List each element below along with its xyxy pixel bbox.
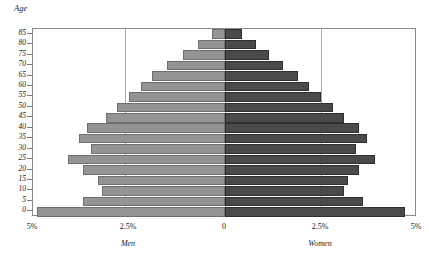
y-axis-title: Age [14, 3, 27, 13]
pyramid-row-age-80 [33, 39, 415, 49]
bar-men-age-5 [83, 197, 225, 207]
pyramid-row-age-55 [33, 92, 415, 102]
y-axis-ticks: 8580757065605550454035302520151050 [0, 28, 32, 216]
y-tick-label: 0 [22, 204, 26, 215]
y-tick-5: 5 [0, 195, 32, 206]
bar-women-age-80 [225, 40, 256, 50]
x-tick-label-1: 2.5% [120, 222, 137, 231]
pyramid-row-age-10 [33, 186, 415, 196]
pyramid-row-age-40 [33, 123, 415, 133]
y-tick-label: 85 [19, 27, 27, 38]
pyramid-row-age-85 [33, 29, 415, 39]
x-tick-label-3: 2.5% [312, 222, 329, 231]
y-tick-label: 70 [19, 58, 27, 69]
y-tick-label: 20 [19, 163, 27, 174]
y-tick-85: 85 [0, 28, 32, 39]
y-tick-30: 30 [0, 143, 32, 154]
bar-women-age-75 [225, 50, 269, 60]
population-pyramid-chart: Age 8580757065605550454035302520151050 5… [0, 0, 429, 260]
y-tick-label: 80 [19, 37, 27, 48]
y-tick-label: 35 [19, 131, 27, 142]
bar-rows [33, 29, 415, 215]
pyramid-row-age-75 [33, 50, 415, 60]
y-tick-label: 25 [19, 152, 27, 163]
bar-men-age-85 [212, 29, 225, 39]
pyramid-row-age-35 [33, 133, 415, 143]
y-tick-label: 65 [19, 69, 27, 80]
bar-men-age-40 [87, 123, 225, 133]
y-tick-15: 15 [0, 174, 32, 185]
bar-women-age-30 [225, 144, 356, 154]
bar-men-age-60 [141, 82, 225, 92]
plot-area [32, 28, 416, 216]
series-group-labels: MenWomen [0, 239, 429, 253]
bar-men-age-0 [37, 207, 225, 217]
group-label-men: Men [121, 239, 135, 248]
bar-men-age-50 [117, 103, 225, 113]
y-tick-label: 50 [19, 100, 27, 111]
pyramid-row-age-25 [33, 154, 415, 164]
y-tick-label: 60 [19, 79, 27, 90]
bar-men-age-65 [152, 71, 225, 81]
bar-men-age-25 [68, 155, 225, 165]
bar-women-age-5 [225, 197, 363, 207]
y-tick-75: 75 [0, 49, 32, 60]
x-tick-label-2: 0 [222, 222, 226, 231]
y-tick-45: 45 [0, 111, 32, 122]
pyramid-row-age-30 [33, 144, 415, 154]
x-tick-label-0: 5% [27, 222, 38, 231]
y-tick-50: 50 [0, 101, 32, 112]
y-tick-40: 40 [0, 122, 32, 133]
bar-women-age-40 [225, 123, 359, 133]
y-tick-65: 65 [0, 70, 32, 81]
pyramid-row-age-60 [33, 81, 415, 91]
y-tick-label: 30 [19, 142, 27, 153]
y-tick-10: 10 [0, 184, 32, 195]
pyramid-row-age-20 [33, 165, 415, 175]
bar-women-age-70 [225, 61, 283, 71]
bar-men-age-45 [106, 113, 225, 123]
bar-men-age-10 [102, 186, 225, 196]
y-tick-20: 20 [0, 164, 32, 175]
bar-women-age-10 [225, 186, 344, 196]
y-tick-25: 25 [0, 153, 32, 164]
y-tick-55: 55 [0, 90, 32, 101]
bar-women-age-15 [225, 176, 348, 186]
pyramid-row-age-5 [33, 196, 415, 206]
y-tick-label: 15 [19, 173, 27, 184]
pyramid-row-age-0 [33, 207, 415, 217]
y-tick-label: 45 [19, 110, 27, 121]
group-label-women: Women [308, 239, 331, 248]
y-tick-label: 75 [19, 48, 27, 59]
bar-men-age-75 [183, 50, 225, 60]
bar-men-age-15 [98, 176, 225, 186]
pyramid-row-age-50 [33, 102, 415, 112]
y-tick-70: 70 [0, 59, 32, 70]
bar-men-age-70 [167, 61, 225, 71]
pyramid-row-age-15 [33, 175, 415, 185]
bar-men-age-55 [129, 92, 225, 102]
bar-women-age-55 [225, 92, 321, 102]
bar-women-age-20 [225, 165, 359, 175]
y-tick-80: 80 [0, 38, 32, 49]
bar-women-age-0 [225, 207, 405, 217]
x-tick-label-4: 5% [411, 222, 422, 231]
bar-women-age-50 [225, 103, 333, 113]
bar-women-age-60 [225, 82, 309, 92]
y-tick-35: 35 [0, 132, 32, 143]
y-tick-label: 10 [19, 183, 27, 194]
bar-men-age-35 [79, 134, 225, 144]
bar-women-age-65 [225, 71, 298, 81]
pyramid-row-age-70 [33, 60, 415, 70]
bar-women-age-25 [225, 155, 375, 165]
bar-men-age-20 [83, 165, 225, 175]
y-tick-60: 60 [0, 80, 32, 91]
bar-women-age-85 [225, 29, 242, 39]
x-axis-ticks: 5%2.5%02.5%5% [0, 222, 429, 236]
bar-men-age-30 [91, 144, 225, 154]
pyramid-row-age-45 [33, 113, 415, 123]
y-tick-label: 40 [19, 121, 27, 132]
y-tick-label: 5 [22, 194, 26, 205]
y-tick-0: 0 [0, 205, 32, 216]
pyramid-row-age-65 [33, 71, 415, 81]
